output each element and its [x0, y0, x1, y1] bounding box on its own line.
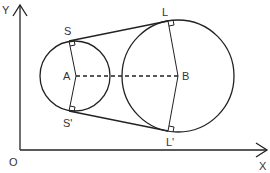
point-label-s: S — [64, 25, 71, 37]
tangent-s-prime-l-prime — [69, 111, 168, 131]
tangent-circles-diagram: Y O X S S' A B L L' — [0, 0, 270, 173]
origin-label: O — [9, 156, 18, 168]
point-label-l: L — [162, 6, 168, 18]
point-label-b: B — [182, 70, 189, 82]
radius-bl-prime — [168, 76, 178, 131]
point-label-a: A — [63, 70, 71, 82]
point-label-l-prime: L' — [166, 136, 174, 148]
point-label-s-prime: S' — [63, 117, 72, 129]
tangent-sl — [69, 21, 168, 41]
y-axis-label: Y — [2, 4, 10, 16]
radius-bl — [168, 21, 178, 76]
x-axis-label: X — [259, 160, 267, 172]
